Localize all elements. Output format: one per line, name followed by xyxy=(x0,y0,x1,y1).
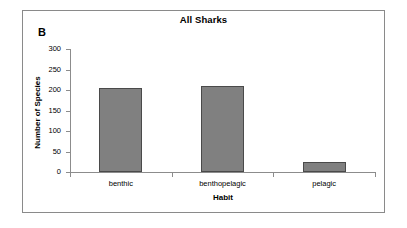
y-axis-tick-label: 50 xyxy=(53,147,61,156)
chart-title: All Sharks xyxy=(0,14,407,25)
x-axis-line xyxy=(70,172,376,173)
y-axis-title: Number of Species xyxy=(33,48,42,178)
x-axis-tick-mark xyxy=(375,173,376,177)
panel-label: B xyxy=(38,26,46,38)
bar xyxy=(201,86,244,172)
y-axis-tick-label: 200 xyxy=(48,85,61,94)
x-axis-title: Habit xyxy=(70,193,376,202)
y-axis-tick-label: 300 xyxy=(48,44,61,53)
chart-figure: All Sharks B Number of Species 050100150… xyxy=(0,0,407,228)
plot-area xyxy=(70,49,375,172)
y-axis-tick-label: 100 xyxy=(48,126,61,135)
y-axis-tick-label: 150 xyxy=(48,106,61,115)
x-axis-tick-label: pelagic xyxy=(264,179,384,188)
x-axis-tick-mark xyxy=(273,173,274,177)
y-axis-tick-label: 0 xyxy=(57,167,61,176)
bar xyxy=(303,162,346,172)
x-axis-tick-mark xyxy=(172,173,173,177)
bar xyxy=(99,88,142,172)
y-axis-tick-label: 250 xyxy=(48,65,61,74)
x-axis-tick-mark xyxy=(70,173,71,177)
